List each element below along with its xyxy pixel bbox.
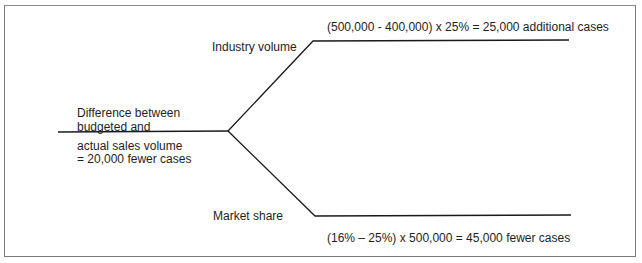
industry-volume-calculation: (500,000 - 400,000) x 25% = 25,000 addit… bbox=[327, 20, 609, 34]
market-share-label: Market share bbox=[213, 209, 283, 223]
market-share-calculation: (16% – 25%) x 500,000 = 45,000 fewer cas… bbox=[327, 231, 570, 245]
root-label-line1: Difference between bbox=[77, 106, 180, 120]
root-label-line4: = 20,000 fewer cases bbox=[77, 152, 191, 166]
industry-volume-label: Industry volume bbox=[212, 40, 297, 54]
root-label-line3: actual sales volume bbox=[77, 139, 182, 153]
root-label-line2: budgeted and bbox=[77, 120, 150, 134]
market-share-branch-line bbox=[228, 131, 571, 216]
